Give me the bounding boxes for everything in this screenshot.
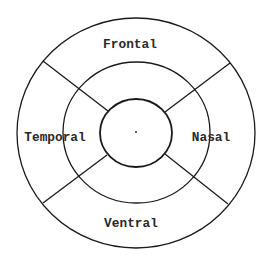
inner-ring xyxy=(100,99,172,167)
label-frontal: Frontal xyxy=(103,37,157,52)
divider-upper-left xyxy=(43,61,108,111)
diagram-canvas: Frontal Temporal Nasal Ventral xyxy=(0,0,269,263)
label-ventral: Ventral xyxy=(104,216,158,231)
center-point xyxy=(135,131,137,133)
label-temporal: Temporal xyxy=(24,130,86,145)
divider-upper-right xyxy=(165,63,230,112)
label-nasal: Nasal xyxy=(192,130,231,145)
divider-lower-right xyxy=(165,154,228,204)
eye-region-diagram: Frontal Temporal Nasal Ventral xyxy=(0,0,269,263)
divider-lower-left xyxy=(43,155,107,203)
